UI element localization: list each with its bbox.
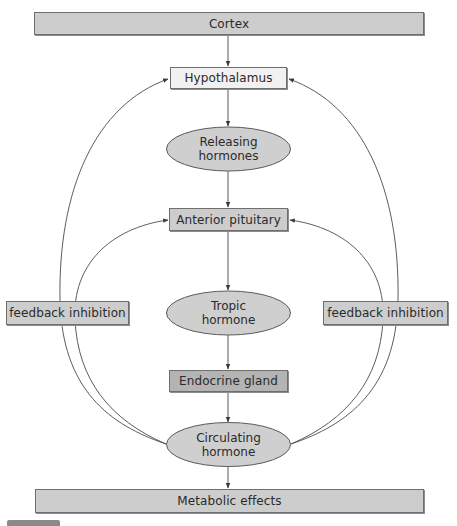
cortex-box: Cortex [34, 12, 424, 35]
hypothalamus-label: Hypothalamus [184, 71, 272, 85]
endocrine-gland-box: Endocrine gland [169, 370, 288, 392]
releasing-hormones-shape [167, 127, 291, 171]
metabolic-effects-label: Metabolic effects [177, 494, 281, 508]
feedback-left-to-pituitary [75, 220, 168, 444]
anterior-pituitary-label: Anterior pituitary [176, 213, 281, 227]
hypothalamus-box: Hypothalamus [170, 67, 287, 89]
endocrine-gland-label: Endocrine gland [179, 374, 278, 388]
cortex-label: Cortex [209, 17, 249, 31]
figure-label-tab [7, 520, 60, 526]
metabolic-effects-box: Metabolic effects [35, 489, 424, 513]
feedback-inhibition-left-label: feedback inhibition [9, 306, 126, 320]
feedback-left-to-hypothalamus [60, 79, 168, 444]
feedback-inhibition-left-box: feedback inhibition [6, 301, 129, 325]
tropic-hormone-shape [167, 291, 291, 335]
feedback-inhibition-right-label: feedback inhibition [327, 306, 444, 320]
feedback-right-to-pituitary [290, 220, 383, 444]
feedback-right-to-hypothalamus [289, 79, 398, 444]
anterior-pituitary-box: Anterior pituitary [169, 208, 288, 231]
circulating-hormone-shape [167, 423, 291, 467]
feedback-inhibition-right-box: feedback inhibition [323, 301, 448, 325]
